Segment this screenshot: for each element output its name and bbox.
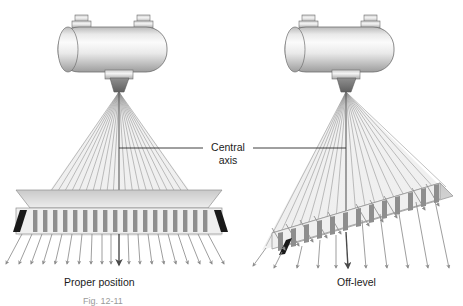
tube-end-cap-right xyxy=(285,27,305,72)
tube-port-collar-right xyxy=(332,70,360,79)
collimator-top-face-left xyxy=(16,190,222,208)
central-axis-label-line2: axis xyxy=(219,154,238,166)
tube-port-collar-left xyxy=(105,70,133,79)
radiography-alignment-figure: Proper position xyxy=(0,0,463,306)
figure-caption-partial: Fig. 12-11 xyxy=(83,296,123,306)
tube-end-cap-left xyxy=(58,27,78,72)
central-axis-label-line1: Central xyxy=(211,141,245,153)
panel-label-proper-position: Proper position xyxy=(64,276,135,288)
panel-label-off-level: Off-level xyxy=(337,276,376,288)
